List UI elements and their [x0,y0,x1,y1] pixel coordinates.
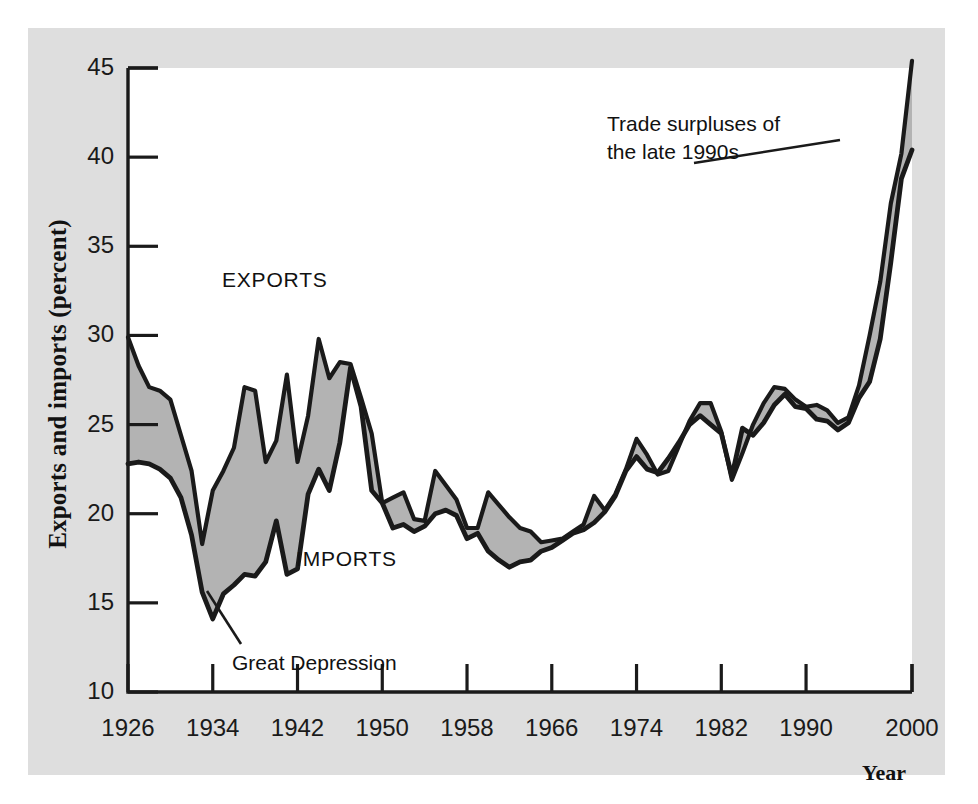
great-depression-annotation: Great Depression [232,649,397,677]
x-tick-label-1950: 1950 [337,714,427,742]
exports-series-label: EXPORTS [222,268,328,292]
plot-area-background [128,68,912,692]
x-tick-label-1990: 1990 [761,714,851,742]
x-tick-label-1958: 1958 [422,714,512,742]
x-tick-label-2000: 2000 [867,714,957,742]
y-tick-label-45: 45 [68,53,114,81]
x-tick-label-1934: 1934 [168,714,258,742]
chart-figure: Exports and imports (percent) Year 45403… [0,0,978,804]
y-tick-label-10: 10 [68,677,114,705]
x-tick-label-1926: 1926 [83,714,173,742]
imports-series-label: IMPORTS [296,547,397,571]
x-axis-title: Year [862,760,906,786]
y-tick-label-35: 35 [68,231,114,259]
chart-plot [0,0,978,804]
x-tick-label-1942: 1942 [253,714,343,742]
y-tick-label-30: 30 [68,320,114,348]
y-tick-label-15: 15 [68,588,114,616]
y-tick-label-20: 20 [68,499,114,527]
y-tick-label-40: 40 [68,142,114,170]
y-tick-label-25: 25 [68,410,114,438]
x-tick-label-1974: 1974 [592,714,682,742]
x-tick-label-1982: 1982 [676,714,766,742]
x-tick-label-1966: 1966 [507,714,597,742]
trade-surpluses-annotation: Trade surpluses of the late 1990s [607,110,780,165]
